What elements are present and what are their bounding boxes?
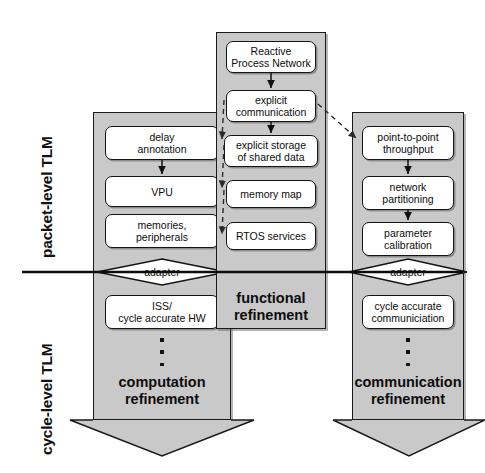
node-delay-annotation-line2: annotation <box>137 143 186 155</box>
node-p2p-line1: point-to-point <box>377 131 438 143</box>
caption-functional-line2: refinement <box>234 307 308 323</box>
axis-label-packet-level-tlm: packet-level TLM <box>38 136 56 258</box>
caption-functional-line1: functional <box>236 290 305 306</box>
node-delay-annotation-line1: delay <box>149 131 174 143</box>
node-cycle-accurate-communiciation[interactable]: cycle accurate communiciation <box>362 295 454 329</box>
node-delay-annotation[interactable]: delay annotation <box>105 126 219 160</box>
axis-label-cycle-level-tlm: cycle-level TLM <box>38 343 56 455</box>
adapter-label-computation: adapter <box>144 266 180 278</box>
node-explicit-storage-line2: of shared data <box>237 151 304 163</box>
adapter-diamond-computation[interactable]: adapter <box>96 258 228 286</box>
node-rtos-services-label: RTOS services <box>236 230 306 242</box>
node-network-line1: network <box>390 181 427 193</box>
node-vpu-label: VPU <box>151 186 173 198</box>
node-cycle-acc-line2: communiciation <box>372 312 445 324</box>
caption-communication-line2: refinement <box>371 391 445 407</box>
column-communication-refinement-arrowhead <box>333 420 485 456</box>
diagram-canvas: packet-level TLM cycle-level TLM delay a… <box>0 0 485 473</box>
node-parameter-calibration[interactable]: parameter calibration <box>362 222 454 256</box>
node-iss-cycle-accurate-hw[interactable]: ISS/ cycle accurate HW <box>105 295 219 329</box>
node-explicit-storage-line1: explicit storage <box>236 139 306 151</box>
node-explicit-communication[interactable]: explicit communication <box>226 90 316 122</box>
node-network-partitioning[interactable]: network partitioning <box>362 176 454 210</box>
node-rtos-services[interactable]: RTOS services <box>226 222 316 250</box>
node-point-to-point-throughput[interactable]: point-to-point throughput <box>362 126 454 160</box>
vertical-ellipsis-computation <box>160 338 164 366</box>
node-explicit-comm-line2: communication <box>236 106 307 118</box>
node-network-line2: partitioning <box>382 193 433 205</box>
node-p2p-line2: throughput <box>383 143 433 155</box>
caption-functional-refinement: functional refinement <box>216 290 326 324</box>
node-parameter-line1: parameter <box>384 227 432 239</box>
node-iss-line2: cycle accurate HW <box>118 312 206 324</box>
node-reactive-line2: Process Network <box>231 57 310 69</box>
node-iss-line1: ISS/ <box>152 300 172 312</box>
node-reactive-process-network[interactable]: Reactive Process Network <box>226 41 316 73</box>
node-memory-map[interactable]: memory map <box>226 180 316 208</box>
caption-communication-refinement: communication refinement <box>345 374 471 408</box>
adapter-label-communication: adapter <box>390 266 426 278</box>
caption-communication-line1: communication <box>354 374 461 390</box>
node-reactive-line1: Reactive <box>251 45 292 57</box>
column-computation-refinement-arrowhead <box>70 420 254 456</box>
node-memories-peripherals-line2: peripherals <box>136 231 188 243</box>
caption-computation-line2: refinement <box>125 391 199 407</box>
adapter-diamond-communication[interactable]: adapter <box>348 258 468 286</box>
node-vpu[interactable]: VPU <box>105 176 219 207</box>
node-cycle-acc-line1: cycle accurate <box>374 300 441 312</box>
caption-computation-line1: computation <box>119 374 206 390</box>
node-explicit-comm-line1: explicit <box>255 94 287 106</box>
node-memories-peripherals[interactable]: memories, peripherals <box>105 214 219 248</box>
caption-computation-refinement: computation refinement <box>93 374 231 408</box>
vertical-ellipsis-communication <box>406 338 410 366</box>
node-parameter-line2: calibration <box>384 239 432 251</box>
node-memories-peripherals-line1: memories, <box>137 219 186 231</box>
node-memory-map-label: memory map <box>240 188 301 200</box>
node-explicit-storage-shared-data[interactable]: explicit storage of shared data <box>224 135 318 167</box>
